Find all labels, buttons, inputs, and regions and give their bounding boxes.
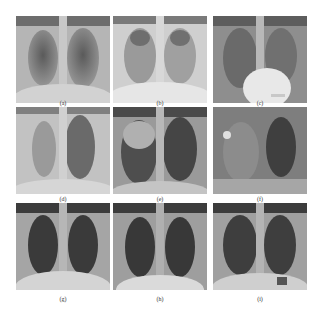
panel-label-a: (a) (16, 99, 110, 107)
xray-panel-g (16, 203, 110, 290)
panel-label-e: (e) (113, 195, 207, 203)
xray-image-e (113, 107, 207, 194)
panel-label-b: (b) (113, 99, 207, 107)
panel-label-c: (c) (213, 99, 307, 107)
xray-panel-f (213, 107, 307, 194)
xray-panel-h (113, 203, 207, 290)
xray-image-f (213, 107, 307, 194)
panel-label-d: (d) (16, 195, 110, 203)
xray-panel-d (16, 107, 110, 194)
xray-panel-a (16, 16, 110, 103)
xray-image-b (113, 16, 207, 103)
panel-label-h: (h) (113, 295, 207, 303)
xray-image-d (16, 107, 110, 194)
xray-image-c (213, 16, 307, 103)
xray-image-a (16, 16, 110, 103)
panel-label-g: (g) (16, 295, 110, 303)
xray-panel-i (213, 203, 307, 290)
xray-image-h (113, 203, 207, 290)
xray-panel-c (213, 16, 307, 103)
xray-panel-b (113, 16, 207, 103)
xray-panel-e (113, 107, 207, 194)
xray-image-g (16, 203, 110, 290)
panel-label-f: (f) (213, 195, 307, 203)
panel-label-i: (i) (213, 295, 307, 303)
xray-image-i (213, 203, 307, 290)
